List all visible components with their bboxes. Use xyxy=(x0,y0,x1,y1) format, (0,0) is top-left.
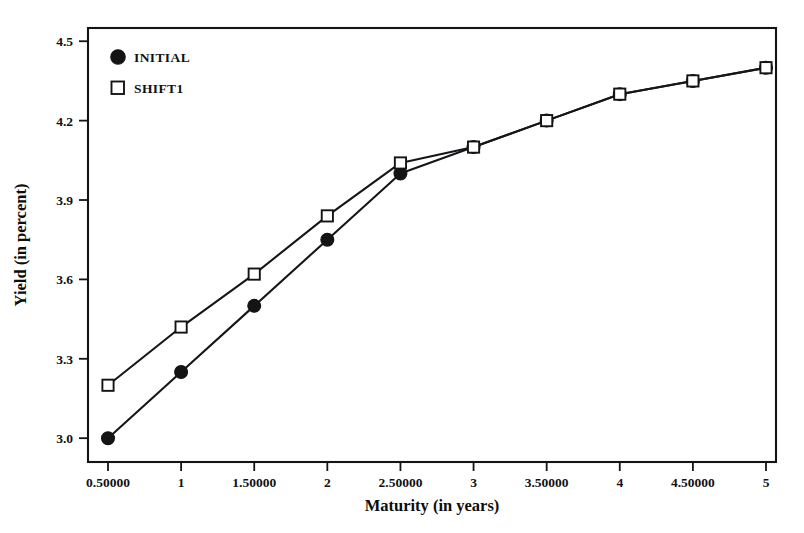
x-tick-label: 3 xyxy=(470,475,477,490)
marker-shift1 xyxy=(249,269,260,280)
y-axis-ticks xyxy=(79,41,88,438)
chart-figure: 3.03.33.63.94.24.5 0.5000011.5000022.500… xyxy=(0,0,804,533)
x-tick-label: 3.50000 xyxy=(525,475,569,490)
marker-shift1 xyxy=(468,141,479,152)
series-markers xyxy=(102,61,773,444)
series-line-initial xyxy=(108,68,766,438)
y-tick-label: 3.9 xyxy=(56,193,73,208)
marker-initial xyxy=(102,432,115,445)
x-axis-title: Maturity (in years) xyxy=(365,496,500,515)
x-tick-label: 4.50000 xyxy=(671,475,715,490)
yield-curve-chart: 3.03.33.63.94.24.5 0.5000011.5000022.500… xyxy=(0,0,804,533)
chart-legend: INITIAL SHIFT1 xyxy=(111,50,190,96)
marker-shift1 xyxy=(760,62,771,73)
marker-shift1 xyxy=(541,115,552,126)
x-tick-label: 1 xyxy=(178,475,185,490)
plot-frame xyxy=(88,28,776,462)
marker-initial xyxy=(321,233,334,246)
y-axis-tick-labels: 3.03.33.63.94.24.5 xyxy=(56,34,73,446)
x-tick-label: 5 xyxy=(763,475,770,490)
marker-shift1 xyxy=(322,210,333,221)
marker-initial xyxy=(248,299,261,312)
marker-initial xyxy=(175,366,188,379)
legend-label-initial: INITIAL xyxy=(134,50,190,65)
open-square-icon xyxy=(112,82,125,95)
x-tick-label: 4 xyxy=(616,475,623,490)
y-tick-label: 4.2 xyxy=(56,114,73,129)
marker-shift1 xyxy=(395,157,406,168)
series-line-shift1 xyxy=(108,68,766,386)
y-tick-label: 3.6 xyxy=(56,272,73,287)
y-axis-title: Yield (in percent) xyxy=(11,184,30,307)
marker-shift1 xyxy=(102,380,113,391)
marker-shift1 xyxy=(614,89,625,100)
filled-circle-icon xyxy=(111,50,125,64)
series-lines xyxy=(108,68,766,438)
y-tick-label: 3.3 xyxy=(56,352,73,367)
x-tick-label: 2 xyxy=(324,475,331,490)
legend-label-shift1: SHIFT1 xyxy=(134,81,184,96)
marker-shift1 xyxy=(176,321,187,332)
x-tick-label: 0.50000 xyxy=(86,475,130,490)
y-tick-label: 4.5 xyxy=(56,34,73,49)
x-tick-label: 1.50000 xyxy=(232,475,276,490)
x-tick-label: 2.50000 xyxy=(379,475,423,490)
x-axis-tick-labels: 0.5000011.5000022.5000033.5000044.500005 xyxy=(86,475,770,490)
marker-shift1 xyxy=(687,75,698,86)
x-axis-ticks xyxy=(108,462,766,471)
y-tick-label: 3.0 xyxy=(56,431,73,446)
